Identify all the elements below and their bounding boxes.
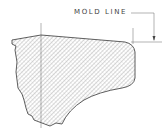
arrow-down-icon <box>153 36 156 41</box>
mold-cross-section-diagram <box>0 0 168 137</box>
mold-line-label: MOLD LINE <box>74 8 127 16</box>
callout-leader <box>131 13 154 40</box>
